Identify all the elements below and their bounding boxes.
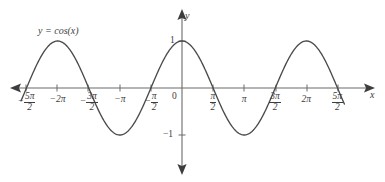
x-tick-label: 3π2 xyxy=(269,92,281,112)
origin-label: 0 xyxy=(172,92,177,102)
fraction-denominator: 2 xyxy=(210,103,217,113)
tick-text: −π xyxy=(114,94,125,104)
tick-fraction: π2 xyxy=(151,92,158,112)
x-tick-label: −π xyxy=(114,95,125,105)
tick-fraction: 3π2 xyxy=(86,92,98,112)
x-tick-label: 2π xyxy=(301,95,311,105)
y-tick-label-neg-one: −1 xyxy=(163,130,173,140)
x-axis-label: x xyxy=(370,90,374,100)
x-tick-label: −2π xyxy=(50,95,66,105)
tick-fraction: π2 xyxy=(210,92,217,112)
x-tick-label: 5π2 xyxy=(332,92,344,112)
x-tick-label: −π2 xyxy=(144,92,157,112)
fraction-denominator: 2 xyxy=(151,103,158,113)
x-tick-label: −3π2 xyxy=(80,92,98,112)
tick-fraction: 5π2 xyxy=(332,92,344,112)
tick-fraction: 5π2 xyxy=(24,92,36,112)
function-label: y = cos(x) xyxy=(38,26,79,36)
fraction-denominator: 2 xyxy=(86,103,98,113)
tick-fraction: 3π2 xyxy=(269,92,281,112)
tick-text: π xyxy=(242,94,247,104)
y-axis-label: y xyxy=(185,11,189,21)
x-tick-label: −5π2 xyxy=(17,92,35,112)
fraction-denominator: 2 xyxy=(332,103,344,113)
cosine-graph-figure: y = cos(x) y x 1 −1 0 −5π2−2π−3π2−π−π2π2… xyxy=(0,0,385,182)
x-tick-label: π xyxy=(242,95,247,105)
fraction-denominator: 2 xyxy=(269,103,281,113)
y-tick-label-one: 1 xyxy=(170,36,175,46)
fraction-denominator: 2 xyxy=(24,103,36,113)
x-tick-label: π2 xyxy=(210,92,217,112)
tick-text: −2π xyxy=(50,94,66,104)
tick-text: 2π xyxy=(301,94,311,104)
